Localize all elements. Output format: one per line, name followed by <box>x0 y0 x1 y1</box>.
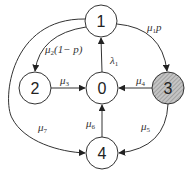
node-1-label: 1 <box>97 13 106 30</box>
node-2: 2 <box>19 72 51 104</box>
edge-0-to-1 <box>101 38 102 72</box>
label-mu2-1-minus-p: μ2(1− p) <box>44 43 83 57</box>
node-3-label: 3 <box>164 80 173 97</box>
label-lambda1: λ1 <box>109 54 119 68</box>
state-transition-diagram: 1 2 0 3 4 λ1 μ1p μ2(1− p) μ3 μ4 μ5 μ6 μ7 <box>0 0 196 176</box>
label-mu5: μ5 <box>140 120 151 134</box>
label-mu7: μ7 <box>37 121 48 135</box>
node-2-label: 2 <box>31 80 40 97</box>
node-4-label: 4 <box>98 145 107 162</box>
label-mu3: μ3 <box>59 74 70 88</box>
label-mu1-p: μ1p <box>146 21 162 35</box>
node-3-highlighted: 3 <box>152 72 184 104</box>
node-0-label: 0 <box>98 80 107 97</box>
node-4: 4 <box>86 137 118 169</box>
node-1: 1 <box>85 5 117 37</box>
node-0: 0 <box>86 72 118 104</box>
label-mu4: μ4 <box>135 74 146 88</box>
label-mu6: μ6 <box>85 117 96 131</box>
